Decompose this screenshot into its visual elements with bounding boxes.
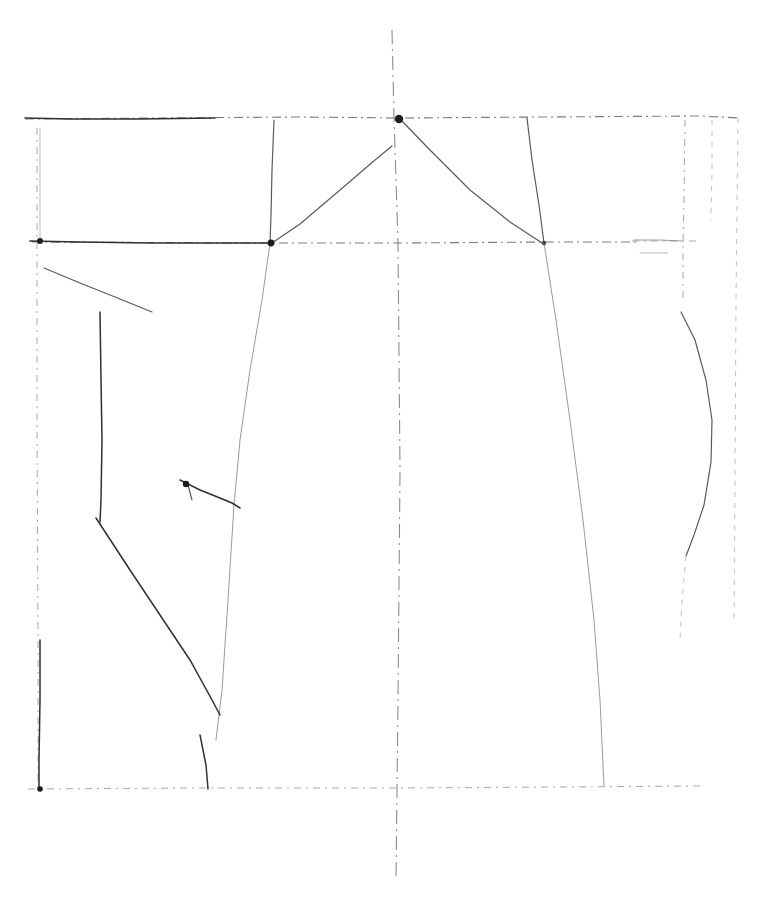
pattern-draft-canvas bbox=[0, 0, 772, 922]
left-armhole-node bbox=[268, 240, 275, 247]
paper-background bbox=[0, 0, 772, 922]
centre-neck-apex-node bbox=[395, 115, 403, 123]
left-underarm-node bbox=[183, 481, 189, 487]
left-chest-origin-node bbox=[37, 238, 43, 244]
pattern-draft-sheet bbox=[0, 0, 772, 922]
right-armhole-node bbox=[542, 241, 546, 245]
left-hem-origin-node bbox=[37, 786, 43, 792]
